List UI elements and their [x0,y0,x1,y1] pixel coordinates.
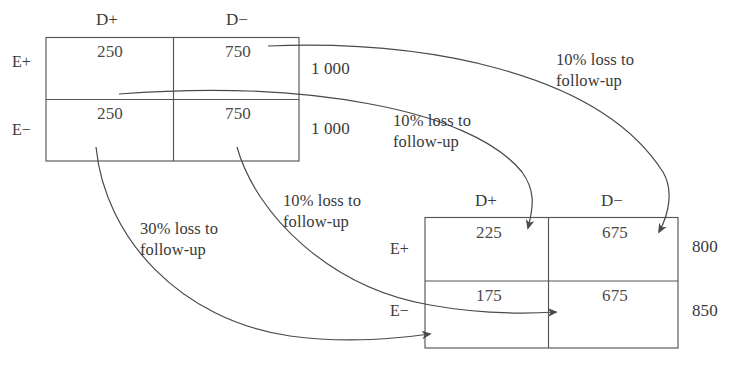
initial-row-total-eplus: 1 000 [311,58,350,80]
initial-row-total-eminus: 1 000 [311,118,350,140]
annotation-loss-ep-dplus-line1: 10% loss to [393,110,471,131]
final-cell-eplus-dplus: 225 [476,222,502,244]
annotation-loss-ep-dplus-line2: follow-up [393,131,471,152]
initial-cohort-table-grid [46,38,299,162]
initial-row-header-eplus: E+ [12,52,31,72]
initial-col-header-dminus: D− [226,9,248,31]
annotation-loss-em-dminus: 10% loss to follow-up [283,190,361,232]
initial-col-header-dplus: D+ [96,9,118,31]
annotation-loss-ep-dminus-line1: 10% loss to [556,49,634,70]
initial-cell-eminus-dplus: 250 [97,103,123,125]
annotation-loss-em-dplus: 30% loss to follow-up [140,218,218,260]
annotation-loss-em-dminus-line2: follow-up [283,211,361,232]
initial-cell-eplus-dplus: 250 [97,41,123,63]
final-row-total-eminus: 850 [692,300,718,322]
final-row-header-eminus: E− [390,301,409,321]
annotation-loss-em-dplus-line2: follow-up [140,239,218,260]
diagram-canvas: D+ D− E+ E− 250 750 250 750 1 000 1 000 … [0,0,738,369]
annotation-loss-em-dplus-line1: 30% loss to [140,218,218,239]
final-row-header-eplus: E+ [390,239,409,259]
final-col-header-dplus: D+ [475,190,497,212]
initial-cell-eminus-dminus: 750 [225,103,251,125]
final-cell-eplus-dminus: 675 [602,222,628,244]
annotation-loss-em-dminus-line1: 10% loss to [283,190,361,211]
annotation-loss-ep-dplus: 10% loss to follow-up [393,110,471,152]
final-row-total-eplus: 800 [692,236,718,258]
final-col-header-dminus: D− [601,190,623,212]
final-cell-eminus-dminus: 675 [602,285,628,307]
annotation-loss-ep-dminus-line2: follow-up [556,70,634,91]
initial-cell-eplus-dminus: 750 [225,41,251,63]
annotation-loss-ep-dminus: 10% loss to follow-up [556,49,634,91]
after-loss-table-grid [425,218,678,349]
final-cell-eminus-dplus: 175 [476,285,502,307]
initial-row-header-eminus: E− [12,120,31,140]
